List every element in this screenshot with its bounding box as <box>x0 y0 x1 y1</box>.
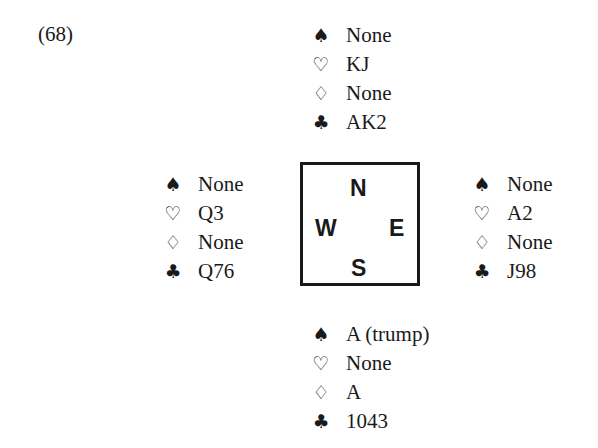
diamond-icon: ♢ <box>311 79 331 108</box>
problem-number: (68) <box>38 22 73 46</box>
compass-west: W <box>315 216 337 240</box>
club-icon: ♣ <box>163 257 183 286</box>
cards-diamonds: A <box>346 378 361 407</box>
cards-clubs: AK2 <box>346 108 387 137</box>
cards-diamonds: None <box>507 228 553 257</box>
cards-clubs: J98 <box>507 257 536 286</box>
cards-spades: None <box>507 170 553 199</box>
spade-icon: ♠ <box>472 170 492 199</box>
cards-hearts: Q3 <box>198 199 224 228</box>
heart-icon: ♡ <box>311 50 331 79</box>
compass-south: S <box>351 256 366 280</box>
cards-spades: None <box>198 170 244 199</box>
cards-clubs: Q76 <box>198 257 234 286</box>
compass-east: E <box>389 216 404 240</box>
spade-icon: ♠ <box>163 170 183 199</box>
diamond-icon: ♢ <box>163 228 183 257</box>
diamond-icon: ♢ <box>472 228 492 257</box>
heart-icon: ♡ <box>163 199 183 228</box>
cards-hearts: None <box>346 349 392 378</box>
heart-icon: ♡ <box>472 199 492 228</box>
spade-icon: ♠ <box>311 21 331 50</box>
heart-icon: ♡ <box>311 349 331 378</box>
club-icon: ♣ <box>472 257 492 286</box>
spade-icon: ♠ <box>311 320 331 349</box>
cards-spades: None <box>346 21 392 50</box>
cards-diamonds: None <box>346 79 392 108</box>
diamond-icon: ♢ <box>311 378 331 407</box>
cards-diamonds: None <box>198 228 244 257</box>
compass-box: N W E S <box>300 162 420 286</box>
cards-hearts: KJ <box>346 50 369 79</box>
cards-clubs: 1043 <box>346 407 388 436</box>
compass-north: N <box>350 176 367 200</box>
cards-hearts: A2 <box>507 199 533 228</box>
cards-spades: A (trump) <box>346 320 429 349</box>
club-icon: ♣ <box>311 407 331 436</box>
club-icon: ♣ <box>311 108 331 137</box>
